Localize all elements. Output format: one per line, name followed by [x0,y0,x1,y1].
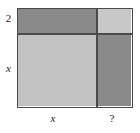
label-left-bottom-height-x: x [2,63,15,74]
horizontal-divider-line [18,33,132,35]
label-bottom-right-width-unknown: ? [105,113,119,124]
label-bottom-left-width-x: x [46,113,60,124]
vertical-divider-line [96,9,98,107]
area-model-figure: 2 x x ? [0,0,140,133]
label-left-top-height-2: 2 [2,13,15,24]
tile-top-left [18,9,96,33]
area-model-rectangle [17,8,133,108]
tile-top-right [96,9,131,33]
tile-bottom-left [18,33,96,106]
tile-bottom-right [96,33,131,106]
